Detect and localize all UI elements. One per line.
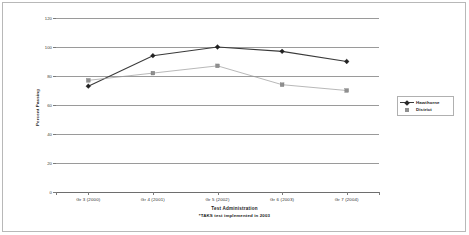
y-axis-label: Percent Passing: [35, 89, 40, 126]
y-tick-mark: [53, 105, 56, 106]
x-tick-mark: [379, 192, 380, 195]
x-tick-mark: [282, 192, 283, 195]
legend-square-marker-icon: [400, 106, 414, 113]
y-tick-label: 120: [45, 16, 52, 21]
y-tick-mark: [53, 18, 56, 19]
x-tick-label: Gr 3 (2000): [76, 197, 100, 202]
y-tick-label: 0: [50, 190, 52, 195]
data-point-district-0: [86, 78, 90, 82]
data-point-hawthorne-0: [86, 84, 91, 89]
x-tick-label: Gr 7 (2004): [335, 197, 359, 202]
chart-footnote: *TAKS test implemented in 2003: [0, 213, 469, 218]
data-point-hawthorne-3: [280, 49, 285, 54]
y-tick-label: 60: [47, 103, 52, 108]
y-tick-mark: [53, 76, 56, 77]
x-tick-label: Gr 4 (2001): [141, 197, 165, 202]
legend-label-hawthorne: Hawthorne: [416, 100, 440, 105]
data-point-hawthorne-2: [215, 45, 220, 50]
x-tick-mark: [88, 192, 89, 195]
x-tick-mark: [56, 192, 57, 195]
y-tick-label: 40: [47, 132, 52, 137]
y-tick-mark: [53, 47, 56, 48]
data-point-district-4: [345, 89, 349, 93]
chart-container: Percent Passing 120100806040200 Gr 3 (20…: [0, 0, 469, 235]
y-tick-mark: [53, 163, 56, 164]
x-axis-label: Test Administration: [0, 206, 469, 211]
legend-item-hawthorne[interactable]: Hawthorne: [400, 99, 451, 106]
legend-label-district: District: [416, 107, 432, 112]
x-tick-label: Gr 5 (2002): [205, 197, 229, 202]
plot-area: [56, 18, 379, 192]
y-tick-label: 20: [47, 161, 52, 166]
data-point-district-1: [151, 71, 155, 75]
y-tick-label: 100: [45, 45, 52, 50]
series-line-district: [88, 66, 346, 91]
chart-legend: Hawthorne District: [397, 96, 454, 116]
series-layer: [56, 18, 379, 192]
data-point-hawthorne-4: [344, 59, 349, 64]
x-tick-mark: [347, 192, 348, 195]
x-tick-label: Gr 6 (2003): [270, 197, 294, 202]
y-tick-mark: [53, 134, 56, 135]
data-point-hawthorne-1: [150, 53, 155, 58]
y-tick-label: 80: [47, 74, 52, 79]
x-tick-mark: [218, 192, 219, 195]
legend-line-marker-icon: [400, 99, 414, 106]
data-point-district-3: [280, 83, 284, 87]
legend-item-district[interactable]: District: [400, 106, 451, 113]
x-tick-mark: [153, 192, 154, 195]
data-point-district-2: [216, 64, 220, 68]
